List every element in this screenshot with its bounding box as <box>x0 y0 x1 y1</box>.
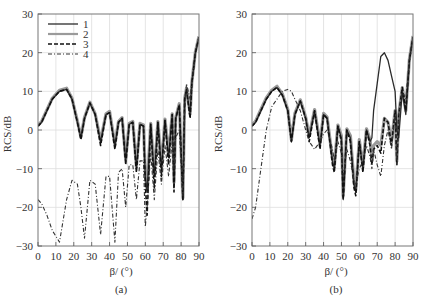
y-axis-label-a: RCS/dB <box>1 116 13 153</box>
x-tick-label: 90 <box>194 250 206 262</box>
x-tick-label: 70 <box>158 250 170 262</box>
x-tick-label: 90 <box>408 250 420 262</box>
legend: 1234 <box>48 18 89 60</box>
x-tick-label: 20 <box>68 250 80 262</box>
y-axis-label-b: RCS/dB <box>212 116 224 153</box>
x-tick-label: 30 <box>86 250 98 262</box>
y-tick-label: 0 <box>28 124 34 136</box>
y-tick-label: 20 <box>22 47 34 59</box>
x-tick-label: 40 <box>104 250 116 262</box>
y-tick-label: −30 <box>16 240 34 252</box>
x-tick-label: 80 <box>390 250 402 262</box>
x-tick-label: 70 <box>372 250 384 262</box>
y-tick-label: −20 <box>16 201 34 213</box>
y-tick-label: 10 <box>22 85 34 97</box>
y-tick-label: 30 <box>22 8 34 20</box>
y-tick-label: 30 <box>236 8 248 20</box>
caption-b: (b) <box>330 283 343 296</box>
x-tick-label: 50 <box>336 250 348 262</box>
y-tick-label: 0 <box>242 124 248 136</box>
y-tick-label: −10 <box>230 163 248 175</box>
x-tick-label: 80 <box>176 250 188 262</box>
y-tick-label: 20 <box>236 47 248 59</box>
series-1-line <box>252 37 413 199</box>
x-tick-label: 60 <box>140 250 152 262</box>
x-axis-label-b: β/ (°) <box>324 265 347 278</box>
series-2-line <box>252 36 413 196</box>
chart-panel-b: 01020304050607080903020100−10−20−30 RCS/… <box>211 0 423 298</box>
caption-a: (a) <box>115 283 128 296</box>
x-axis-label-a: β/ (°) <box>109 265 132 278</box>
series-3-line <box>38 37 199 215</box>
x-tick-label: 0 <box>249 250 255 262</box>
plot-area-b: 01020304050607080903020100−10−20−30 <box>230 8 419 262</box>
plot-area-a: 01020304050607080903020100−10−20−301234 <box>16 8 205 262</box>
x-tick-label: 60 <box>354 250 366 262</box>
legend-label-4: 4 <box>83 48 89 60</box>
chart-panel-a: 01020304050607080903020100−10−20−301234 … <box>0 0 212 298</box>
chart-a-svg: 01020304050607080903020100−10−20−301234 … <box>0 0 212 298</box>
x-tick-label: 20 <box>282 250 294 262</box>
x-tick-label: 50 <box>122 250 134 262</box>
y-tick-label: −10 <box>16 163 34 175</box>
x-tick-label: 30 <box>300 250 312 262</box>
y-tick-label: −30 <box>230 240 248 252</box>
chart-b-svg: 01020304050607080903020100−10−20−30 RCS/… <box>211 0 423 298</box>
series-lines <box>38 36 199 242</box>
y-tick-label: −20 <box>230 201 248 213</box>
x-tick-label: 0 <box>35 250 41 262</box>
x-tick-label: 10 <box>264 250 276 262</box>
series-lines <box>252 36 413 219</box>
y-tick-label: 10 <box>236 85 248 97</box>
x-tick-label: 40 <box>318 250 330 262</box>
x-tick-label: 10 <box>50 250 62 262</box>
